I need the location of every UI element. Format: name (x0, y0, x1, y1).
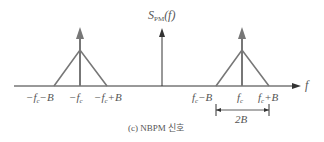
y-axis-label-sub: PM (154, 15, 164, 23)
label-neg-fc-plus-b: −fc+B (94, 92, 122, 105)
label-fc-plus-b: fc+B (258, 92, 278, 105)
psd-axis (159, 28, 165, 86)
x-axis-label: f (305, 79, 308, 91)
label-fc: fc (237, 92, 243, 105)
y-axis-label: SPM(f) (148, 9, 175, 23)
label-neg-fc-minus-b: −fc−B (26, 92, 54, 105)
carrier-impulse-arrow-icon (76, 27, 84, 39)
label-neg-fc: −fc (69, 92, 83, 105)
left-spectrum-component (54, 27, 107, 86)
carrier-impulse-arrow-icon (238, 27, 246, 39)
figure-caption: (c) NBPM 신호 (128, 124, 184, 133)
bandwidth-label: 2B (235, 114, 247, 125)
frequency-axis (14, 83, 301, 89)
y-axis-label-arg: (f) (164, 8, 175, 22)
label-fc-minus-b: fc−B (192, 92, 212, 105)
right-spectrum-component (216, 27, 269, 86)
